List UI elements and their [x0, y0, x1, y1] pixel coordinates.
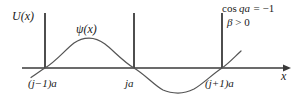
x-axis-label: x: [281, 70, 286, 82]
annotation-beta-condition: β > 0: [222, 17, 274, 28]
annotation-cos-func: cos: [222, 2, 237, 14]
potential-barriers: [45, 13, 222, 68]
annotation-beta-relation: >: [235, 16, 241, 28]
annotation-beta-value: 0: [244, 16, 250, 28]
tick-label-j-plus-1-a: (j+1)a: [205, 78, 234, 89]
x-axis: [22, 65, 291, 72]
tick-label-j-minus-1-a: (j−1)a: [28, 78, 57, 89]
potential-axis-label: U(x): [12, 10, 34, 22]
annotation-cos-arg: qa: [239, 2, 250, 14]
kronig-penney-wavefunction-figure: U(x) ψ(x) x (j−1)a ja (j+1)a cos qa = −1…: [0, 0, 297, 101]
annotation-block: cos qa = −1 β > 0: [222, 3, 274, 28]
tick-label-ja: ja: [125, 78, 134, 89]
annotation-beta-symbol: β: [227, 16, 232, 28]
wavefunction-label: ψ(x): [76, 23, 97, 35]
annotation-cos-relation: =: [254, 2, 260, 14]
annotation-cos-condition: cos qa = −1: [222, 3, 274, 14]
annotation-cos-value: −1: [263, 2, 275, 14]
